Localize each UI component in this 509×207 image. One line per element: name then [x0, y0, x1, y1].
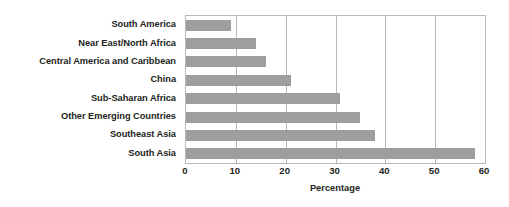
- category-label: Southeast Asia: [0, 125, 181, 143]
- category-label: Near East/North Africa: [0, 33, 181, 51]
- bar: [186, 93, 340, 104]
- bar-slot: [186, 53, 485, 71]
- bar-slot: [186, 34, 485, 52]
- x-tick-label: 10: [229, 165, 240, 176]
- bar-slot: [186, 71, 485, 89]
- bar-slot: [186, 90, 485, 108]
- plot-area: [185, 15, 486, 164]
- x-tick-label: 50: [429, 165, 440, 176]
- category-axis: South America Near East/North Africa Cen…: [0, 15, 181, 162]
- bar-slot: [186, 126, 485, 144]
- bar: [186, 130, 375, 141]
- bar: [186, 56, 266, 67]
- category-label: Sub-Saharan Africa: [0, 89, 181, 107]
- category-label: Central America and Caribbean: [0, 52, 181, 70]
- category-label: China: [0, 70, 181, 88]
- value-axis: 0102030405060: [185, 165, 485, 179]
- x-axis-title: Percentage: [185, 183, 485, 193]
- bar-slot: [186, 145, 485, 163]
- bar-slot: [186, 108, 485, 126]
- bar-chart: South America Near East/North Africa Cen…: [0, 0, 509, 207]
- x-tick-label: 40: [379, 165, 390, 176]
- bar: [186, 148, 475, 159]
- x-tick-label: 20: [279, 165, 290, 176]
- bar-series: [186, 16, 485, 163]
- category-label: South America: [0, 15, 181, 33]
- bar: [186, 20, 231, 31]
- bar: [186, 38, 256, 49]
- category-label: South Asia: [0, 144, 181, 162]
- x-tick-label: 60: [479, 165, 490, 176]
- bar: [186, 75, 291, 86]
- category-label: Other Emerging Countries: [0, 107, 181, 125]
- x-tick-label: 0: [182, 165, 187, 176]
- bar: [186, 112, 360, 123]
- x-tick-label: 30: [329, 165, 340, 176]
- bar-slot: [186, 16, 485, 34]
